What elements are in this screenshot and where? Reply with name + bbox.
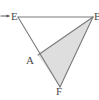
vertex-label-b: B bbox=[94, 11, 99, 22]
geometry-figure: E A F B bbox=[0, 0, 99, 100]
vertex-label-a: A bbox=[26, 55, 34, 66]
vertex-label-f: F bbox=[56, 86, 62, 97]
vertex-label-e: E bbox=[11, 11, 18, 22]
arrow-pointer-icon bbox=[1, 14, 10, 17]
